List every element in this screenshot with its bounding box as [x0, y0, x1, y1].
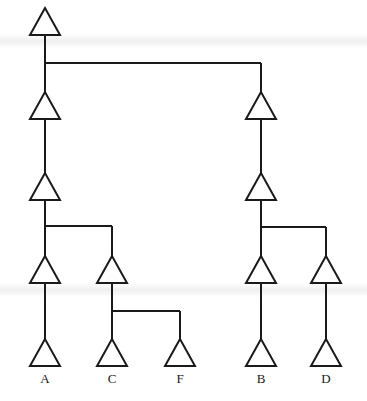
leaf-triangle-node-b: [246, 339, 276, 366]
leaf-triangle-node-f: [165, 339, 195, 366]
leaf-triangle-node-a: [30, 339, 60, 366]
leaf-triangle-node-c: [97, 339, 127, 366]
triangle-node: [246, 173, 276, 200]
leaf-label-d: D: [321, 372, 330, 385]
leaf-triangle-node-d: [311, 339, 341, 366]
triangle-node: [30, 256, 60, 283]
triangle-node: [30, 92, 60, 119]
triangle-node: [30, 173, 60, 200]
triangle-node: [97, 256, 127, 283]
triangle-node: [311, 256, 341, 283]
tree-diagram: [0, 0, 367, 401]
triangle-node: [30, 8, 60, 35]
leaf-label-c: C: [108, 372, 117, 385]
triangle-node: [246, 256, 276, 283]
leaf-label-b: B: [257, 372, 266, 385]
triangle-node: [246, 92, 276, 119]
leaf-label-f: F: [176, 372, 183, 385]
leaf-label-a: A: [40, 372, 49, 385]
